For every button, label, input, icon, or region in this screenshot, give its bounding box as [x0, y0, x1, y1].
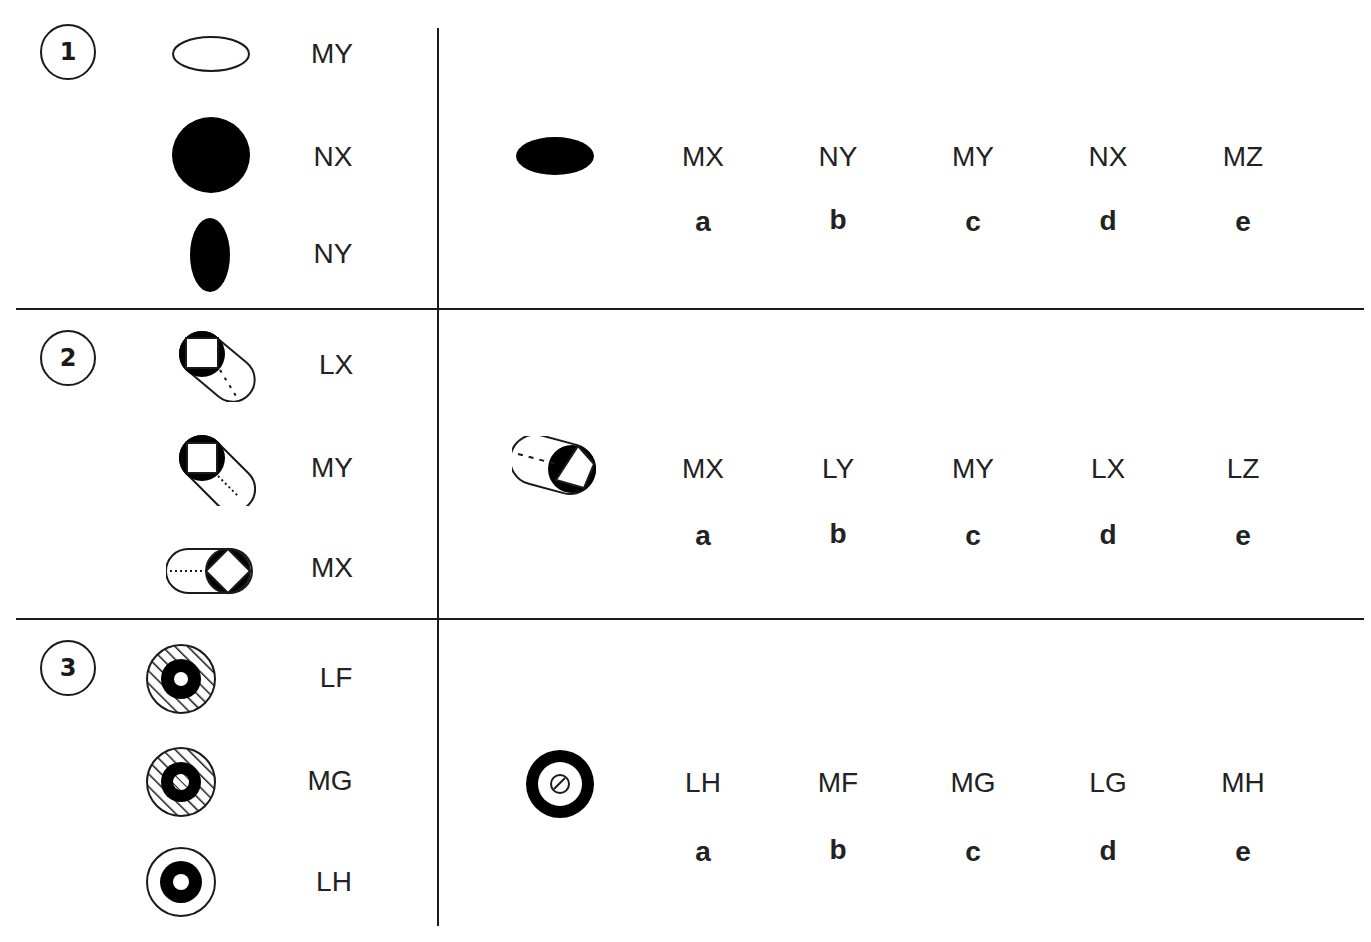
question-number-badge: 3 — [40, 640, 96, 696]
example-label: MG — [307, 765, 352, 797]
cylinder-diamond-icon — [166, 546, 254, 596]
option-code: MY — [952, 141, 994, 173]
option-code: MX — [682, 453, 724, 485]
example-label: LH — [316, 866, 352, 898]
option-code: LG — [1089, 767, 1126, 799]
option-letter-b[interactable]: b — [829, 204, 846, 236]
option-letter-a[interactable]: a — [695, 206, 711, 238]
option-letter-a[interactable]: a — [695, 520, 711, 552]
option-letter-c[interactable]: c — [965, 206, 981, 238]
option-letter-d[interactable]: d — [1099, 205, 1116, 237]
option-code: LY — [822, 453, 854, 485]
option-letter-e[interactable]: e — [1235, 206, 1251, 238]
option-code: MY — [952, 453, 994, 485]
cylinder-diamond-target-icon — [512, 436, 602, 500]
option-code: NX — [1089, 141, 1128, 173]
row-divider-2 — [16, 618, 1364, 620]
question-number: 1 — [60, 38, 77, 66]
question-number: 2 — [60, 344, 77, 372]
option-letter-e[interactable]: e — [1235, 520, 1251, 552]
option-letter-d[interactable]: d — [1099, 835, 1116, 867]
option-code: LX — [1091, 453, 1125, 485]
option-letter-c[interactable]: c — [965, 836, 981, 868]
filled-circle-icon — [170, 116, 252, 196]
option-letter-e[interactable]: e — [1235, 836, 1251, 868]
cylinder-square-icon — [172, 430, 256, 506]
question-number: 3 — [60, 654, 77, 682]
option-code: MG — [950, 767, 995, 799]
filled-horizontal-ellipse-icon — [514, 134, 596, 178]
cylinder-square-icon — [172, 326, 256, 402]
example-label: MY — [311, 452, 353, 484]
option-letter-b[interactable]: b — [829, 518, 846, 550]
row-divider-1 — [16, 308, 1364, 310]
example-label: NX — [314, 141, 353, 173]
option-letter-a[interactable]: a — [695, 836, 711, 868]
option-code: MH — [1221, 767, 1265, 799]
option-code: MX — [682, 141, 724, 173]
question-number-badge: 2 — [40, 330, 96, 386]
example-label: MY — [311, 38, 353, 70]
option-code: LZ — [1227, 453, 1260, 485]
hatched-ring-icon — [145, 643, 217, 715]
example-label: NY — [314, 238, 353, 270]
example-label: MX — [311, 552, 353, 584]
hollow-ellipse-icon — [170, 34, 252, 74]
option-letter-d[interactable]: d — [1099, 519, 1116, 551]
example-label: LF — [320, 662, 353, 694]
vertical-divider — [437, 28, 439, 926]
thick-ring-target-icon — [524, 748, 596, 820]
question-number-badge: 1 — [40, 24, 96, 80]
example-label: LX — [319, 349, 353, 381]
hatched-ring-icon — [145, 746, 217, 818]
option-letter-c[interactable]: c — [965, 520, 981, 552]
option-code: NY — [819, 141, 858, 173]
option-letter-b[interactable]: b — [829, 834, 846, 866]
plain-ring-icon — [145, 846, 217, 918]
filled-vertical-ellipse-icon — [188, 216, 232, 294]
option-code: LH — [685, 767, 721, 799]
option-code: MF — [818, 767, 858, 799]
option-code: MZ — [1223, 141, 1263, 173]
